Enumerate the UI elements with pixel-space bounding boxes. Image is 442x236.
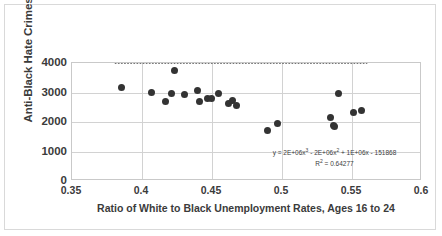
data-point — [118, 84, 125, 91]
r-squared-value: = 0.64277 — [323, 160, 354, 167]
data-point — [194, 87, 201, 94]
data-point — [162, 98, 169, 105]
data-point — [181, 91, 188, 98]
data-point — [358, 107, 365, 114]
data-point — [233, 102, 240, 109]
data-point — [208, 95, 215, 102]
data-point — [168, 90, 175, 97]
data-point — [171, 67, 178, 74]
data-point — [331, 123, 338, 130]
data-point — [148, 89, 155, 96]
data-point — [350, 109, 357, 116]
plot-area: y = 2E+06x3 - 2E+06x2 + 1E+06x - 151868 … — [71, 62, 421, 180]
data-point — [327, 114, 334, 121]
data-point — [335, 90, 342, 97]
x-tick-label: 0.6 — [401, 184, 441, 196]
gridline-horizontal — [72, 122, 420, 123]
x-tick-label: 0.45 — [191, 184, 231, 196]
equation-mid: - 2E+06x — [308, 149, 336, 156]
data-point — [196, 98, 203, 105]
x-tick-label: 0.35 — [51, 184, 91, 196]
data-point — [215, 90, 222, 97]
gridline-horizontal — [72, 93, 420, 94]
trendline-equation-annotation: y = 2E+06x3 - 2E+06x2 + 1E+06x - 151868 … — [252, 147, 417, 169]
x-tick-label: 0.55 — [331, 184, 371, 196]
gridline-vertical — [142, 63, 143, 179]
r-squared-text: R2 = 0.64277 — [252, 158, 417, 169]
gridline-vertical — [212, 63, 213, 179]
equation-text: y = 2E+06x3 - 2E+06x2 + 1E+06x - 151868 — [252, 147, 417, 158]
x-tick-label: 0.4 — [121, 184, 161, 196]
data-point — [264, 127, 271, 134]
equation-tail: + 1E+06x - 151868 — [339, 149, 396, 156]
scatter-chart: Anti-Black Hate Crimes 4000 3000 2000 10… — [0, 0, 442, 236]
equation-lead: y = 2E+06x — [273, 149, 306, 156]
x-axis-title: Ratio of White to Black Unemployment Rat… — [71, 202, 421, 214]
data-point — [274, 120, 281, 127]
x-tick-label: 0.5 — [261, 184, 301, 196]
